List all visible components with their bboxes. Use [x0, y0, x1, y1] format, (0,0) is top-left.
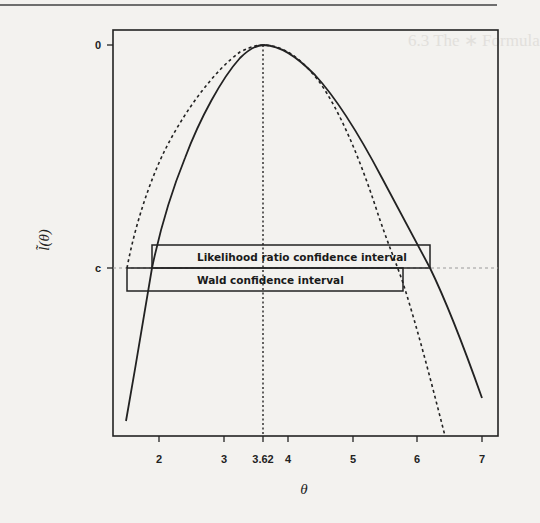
x-tick-label-7: 7	[479, 453, 485, 465]
lr-interval-label: Likelihood ratio confidence interval	[197, 251, 407, 263]
x-tick-label-3-62: 3.62	[252, 453, 273, 465]
log-likelihood-curve	[126, 45, 482, 421]
wald-quadratic-curve	[127, 45, 445, 436]
x-tick-label-3: 3	[221, 453, 227, 465]
x-tick-label-5: 5	[350, 453, 356, 465]
wald-interval-label: Wald confidence interval	[197, 274, 344, 286]
x-tick-label-4: 4	[285, 453, 292, 465]
plot-frame	[113, 30, 498, 436]
x-tick-label-6: 6	[414, 453, 420, 465]
y-axis-title: l̃(θ)	[36, 229, 53, 251]
y-tick-label-0: 0	[95, 39, 101, 51]
x-tick-label-2: 2	[156, 453, 162, 465]
x-ticks	[159, 436, 482, 442]
x-axis-title: θ	[300, 481, 308, 497]
y-tick-label-c: c	[95, 262, 101, 274]
